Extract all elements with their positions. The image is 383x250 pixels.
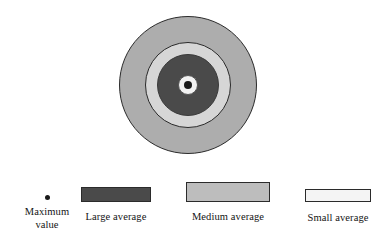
legend-swatch-maximum-value xyxy=(45,195,50,200)
legend-label-medium-average: Medium average xyxy=(177,211,279,224)
legend-item-large-average: Large average xyxy=(72,180,160,224)
legend-swatch-large-average xyxy=(81,187,151,202)
legend-swatch-holder-small-average xyxy=(295,180,381,206)
center-dot-maximum-value xyxy=(184,81,192,89)
legend-swatch-holder-large-average xyxy=(72,180,160,206)
legend-item-small-average: Small average xyxy=(295,180,381,225)
legend-swatch-medium-average xyxy=(186,182,270,202)
legend-label-small-average: Small average xyxy=(295,212,381,225)
figure-root: Maximum value Large average Medium avera… xyxy=(0,0,383,250)
legend-swatch-holder-medium-average xyxy=(177,180,279,206)
legend-swatch-small-average xyxy=(305,189,371,202)
legend-item-medium-average: Medium average xyxy=(177,180,279,224)
legend: Maximum value Large average Medium avera… xyxy=(0,180,383,250)
concentric-ring-diagram xyxy=(118,15,260,157)
legend-label-large-average: Large average xyxy=(72,211,160,224)
